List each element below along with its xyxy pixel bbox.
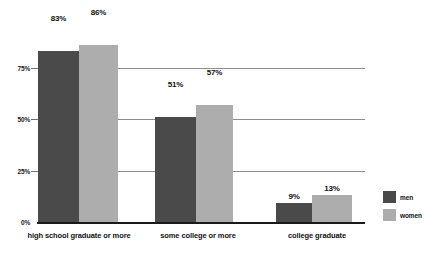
legend-label-women: women — [400, 212, 422, 219]
bar-women-college-graduate[interactable] — [312, 195, 352, 222]
legend-swatch-women-icon — [383, 209, 396, 221]
bar-women-some-college[interactable] — [196, 105, 233, 222]
bar-value-women-high-school: 86% — [79, 8, 118, 17]
bar-men-high-school[interactable] — [38, 51, 79, 222]
x-axis-baseline — [37, 222, 365, 224]
bar-value-women-college-graduate: 13% — [312, 184, 352, 193]
category-label-some-college: some college or more — [147, 231, 249, 240]
y-tick-label-25: 25% — [4, 168, 30, 175]
bar-value-men-some-college: 51% — [155, 80, 196, 89]
y-tick-label-75: 75% — [4, 65, 30, 72]
category-label-college-graduate: college graduate — [269, 231, 365, 240]
bar-value-men-college-graduate: 9% — [276, 192, 312, 201]
y-tick-label-0: 0% — [4, 219, 30, 226]
bar-value-women-some-college: 57% — [196, 68, 233, 77]
y-tick-label-50: 50% — [4, 116, 30, 123]
legend-swatch-men-icon — [383, 191, 396, 203]
bar-men-some-college[interactable] — [155, 117, 196, 222]
bar-men-college-graduate[interactable] — [276, 203, 312, 222]
bar-women-high-school[interactable] — [79, 45, 118, 222]
bar-chart: 75% 50% 25% 0% 83% 86% 51% 57% 9% 13% hi… — [0, 0, 428, 257]
category-label-high-school: high school graduate or more — [10, 231, 148, 240]
legend-label-men: men — [400, 194, 413, 201]
bar-value-men-high-school: 83% — [38, 14, 79, 23]
